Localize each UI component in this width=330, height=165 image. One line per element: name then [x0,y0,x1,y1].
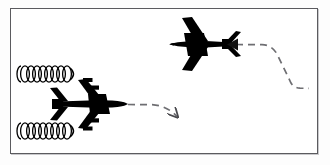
wingtip-vortex-upper-icon [17,66,74,82]
wingtip-vortex-lower-icon [17,123,74,139]
figure-root [0,0,330,165]
wake-turbulence-scene [0,0,330,165]
following-aircraft-flight-path [227,39,309,89]
leading-aircraft-flight-path [128,105,177,117]
